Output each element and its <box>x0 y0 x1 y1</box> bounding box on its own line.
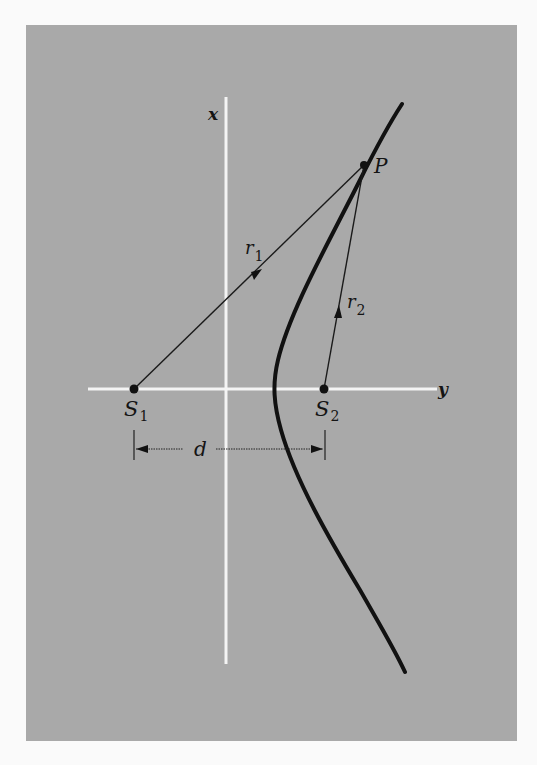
s1-label: S1 <box>124 397 148 424</box>
dimension-d-label: d <box>194 437 207 461</box>
hyperbola-diagram: x y P r1 r2 S1 S2 d <box>0 0 537 765</box>
dimension-arrow-left-icon <box>136 445 148 453</box>
x-axis-label: x <box>207 104 219 124</box>
point-p-label: P <box>373 154 388 178</box>
y-axis-label: y <box>437 379 449 399</box>
r1-label: r1 <box>245 237 264 264</box>
r1-arrow-icon <box>251 269 262 280</box>
r2-label: r2 <box>347 291 366 318</box>
point-s2 <box>320 385 329 394</box>
dimension-arrow-right-icon <box>311 445 323 453</box>
point-p <box>360 161 368 169</box>
point-s1 <box>130 385 139 394</box>
s2-label: S2 <box>315 397 339 424</box>
